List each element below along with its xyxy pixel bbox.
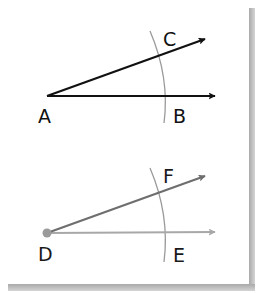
ray-df xyxy=(47,176,205,233)
label-c: C xyxy=(163,28,176,50)
ray-ac xyxy=(47,39,205,96)
original-angle: C A B xyxy=(38,28,215,127)
label-f: F xyxy=(163,165,174,187)
vertex-d-dot xyxy=(43,229,52,238)
diagram-canvas: C A B F D E xyxy=(0,0,262,293)
label-a: A xyxy=(38,105,51,127)
copied-angle: F D E xyxy=(38,165,215,266)
label-e: E xyxy=(173,244,185,266)
label-d: D xyxy=(38,243,53,265)
label-b: B xyxy=(173,105,186,127)
card-shadow-bottom xyxy=(8,284,255,291)
card-shadow-right xyxy=(249,8,255,291)
ray-de xyxy=(47,232,215,233)
